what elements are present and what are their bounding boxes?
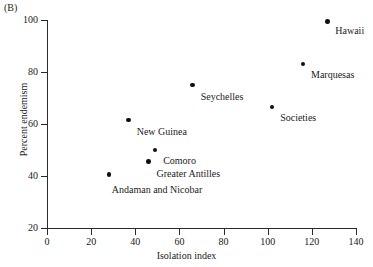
x-tick-mark (268, 229, 269, 235)
data-point-label: Hawaii (335, 25, 364, 36)
data-point-label: Andaman and Nicobar (112, 184, 203, 195)
x-tick-label: 40 (130, 237, 140, 247)
data-point (301, 62, 306, 67)
x-tick-label: 120 (304, 237, 319, 247)
data-point (153, 148, 158, 153)
x-tick-label: 60 (174, 237, 184, 247)
data-point (190, 83, 195, 88)
y-tick-label: 100 (0, 15, 38, 25)
x-axis-title: Isolation index (0, 250, 373, 261)
x-tick-mark (356, 229, 357, 235)
data-point (270, 105, 275, 110)
x-tick-label: 140 (349, 237, 364, 247)
x-tick-label: 80 (219, 237, 229, 247)
panel-letter: (B) (4, 2, 17, 14)
x-tick-label: 20 (86, 237, 96, 247)
data-point-label: Comoro (163, 155, 196, 166)
x-tick-mark (47, 229, 48, 235)
data-point-label: Greater Antilles (157, 168, 221, 179)
y-tick-mark (41, 176, 47, 177)
x-axis-line (47, 228, 357, 229)
data-point-label: New Guinea (137, 126, 187, 137)
y-tick-mark (41, 20, 47, 21)
y-tick-mark (41, 124, 47, 125)
x-tick-label: 0 (45, 237, 50, 247)
x-tick-mark (135, 229, 136, 235)
y-tick-mark (41, 72, 47, 73)
y-tick-label: 20 (0, 223, 38, 233)
x-tick-mark (91, 229, 92, 235)
y-axis-title: Percent endemism (18, 50, 29, 190)
x-tick-label: 100 (260, 237, 275, 247)
data-point (146, 159, 151, 164)
x-tick-mark (224, 229, 225, 235)
data-point-label: Marquesas (311, 69, 354, 80)
data-point (325, 19, 330, 24)
x-tick-mark (312, 229, 313, 235)
x-tick-mark (179, 229, 180, 235)
data-point (126, 118, 131, 123)
data-point-label: Seychelles (201, 91, 244, 102)
scatter-plot-figure: (B) 20406080100 020406080100120140 Hawai… (0, 0, 373, 267)
y-axis-line (47, 20, 48, 229)
data-point (107, 172, 112, 177)
data-point-label: Societies (280, 112, 316, 123)
